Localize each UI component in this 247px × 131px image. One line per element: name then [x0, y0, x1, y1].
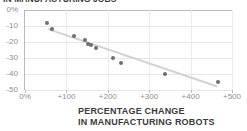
- gridline-horizontal: [25, 90, 232, 91]
- y-tick-label: -10: [0, 21, 18, 30]
- x-tick-label: +100: [49, 92, 83, 101]
- x-tick-label: 0%: [8, 92, 42, 101]
- plot-area: [25, 10, 232, 90]
- data-point: [72, 34, 76, 38]
- x-tick-mark: [108, 90, 109, 93]
- x-tick-mark: [25, 90, 26, 93]
- gridline-horizontal: [25, 26, 232, 27]
- x-axis-title: PERCENTAGE CHANGE IN MANUFACTURING ROBOT…: [78, 106, 215, 128]
- x-tick-label: +200: [91, 92, 125, 101]
- x-tick-mark: [232, 90, 233, 93]
- gridline-vertical: [149, 10, 150, 90]
- y-tick-label: -40: [0, 69, 18, 78]
- chart-container: IN MANUFACTURING JOBS 0%-10-20-30-40-50 …: [0, 0, 247, 131]
- data-point: [119, 61, 123, 65]
- x-tick-label: +300: [132, 92, 166, 101]
- y-tick-label: -20: [0, 37, 18, 46]
- y-tick-label: -30: [0, 53, 18, 62]
- gridline-horizontal: [25, 10, 232, 11]
- gridline-vertical: [66, 10, 67, 90]
- gridline-horizontal: [25, 58, 232, 59]
- x-tick-mark: [191, 90, 192, 93]
- data-point: [89, 43, 93, 47]
- data-point: [94, 46, 98, 50]
- y-axis-line: [24, 10, 25, 90]
- data-point: [216, 80, 220, 84]
- y-tick-label: 0%: [0, 5, 18, 14]
- data-point: [111, 56, 115, 60]
- x-tick-label: +500: [215, 92, 247, 101]
- x-tick-mark: [149, 90, 150, 93]
- data-point: [45, 21, 49, 25]
- x-axis-title-line1: PERCENTAGE CHANGE: [78, 106, 215, 117]
- data-point: [163, 72, 167, 76]
- x-tick-label: +400: [174, 92, 208, 101]
- chart-title: IN MANUFACTURING JOBS: [3, 0, 117, 4]
- gridline-horizontal: [25, 42, 232, 43]
- gridline-horizontal: [25, 74, 232, 75]
- gridline-vertical: [232, 10, 233, 90]
- x-tick-mark: [66, 90, 67, 93]
- x-axis-title-line2: IN MANUFACTURING ROBOTS: [78, 117, 215, 128]
